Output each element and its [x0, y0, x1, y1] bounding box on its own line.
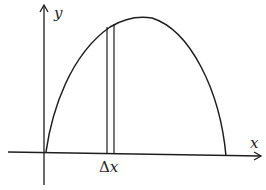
diagram-svg: [0, 0, 266, 190]
x-axis-label: x: [250, 136, 258, 151]
diagram-canvas: y x Δx: [0, 0, 266, 190]
curve: [46, 17, 226, 156]
delta-variable: x: [110, 158, 118, 176]
delta-symbol: Δ: [99, 158, 110, 176]
y-axis-label: y: [54, 6, 62, 21]
x-axis: [8, 152, 261, 156]
delta-x-label: Δx: [99, 160, 118, 175]
